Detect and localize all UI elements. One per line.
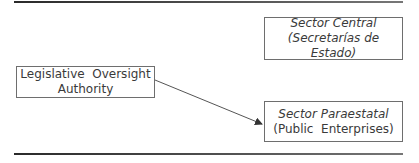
bottom-rule — [14, 153, 403, 155]
arrow-legislative-to-paraestatal — [155, 80, 262, 124]
edge-layer — [0, 0, 419, 163]
